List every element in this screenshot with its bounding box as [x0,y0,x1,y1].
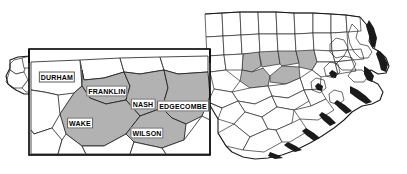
north-carolina-county-map: DURHAM FRANKLIN NASH EDGECOMBE WAKE WILS… [0,0,407,174]
state-county-durham [242,52,261,72]
state-county-franklin [259,51,280,67]
state-county-nash [278,51,299,66]
county-label-wake: WAKE [67,118,93,129]
county-label-wilson: WILSON [130,128,163,139]
county-label-franklin: FRANKLIN [86,86,127,97]
county-label-edgecombe: EDGECOMBE [157,101,209,112]
county-label-durham: DURHAM [39,72,75,83]
state-county-wake [240,68,270,88]
county-label-nash: NASH [131,99,156,110]
map-graphic [0,0,407,174]
